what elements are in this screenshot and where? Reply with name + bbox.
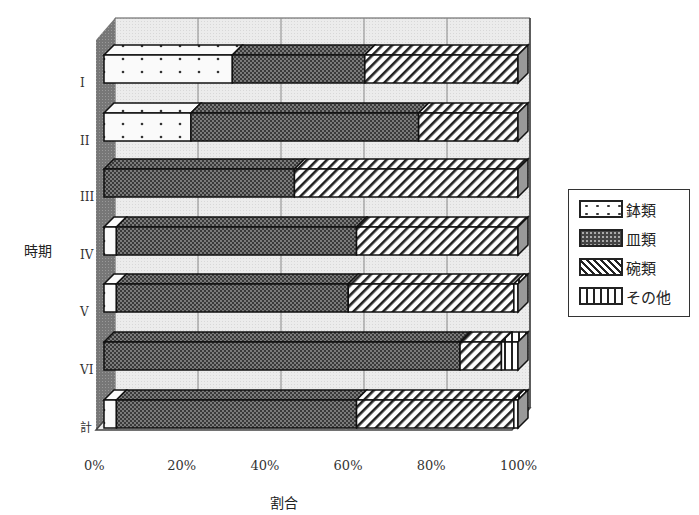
y-category-label: 計 bbox=[80, 420, 92, 435]
bar-segment bbox=[116, 217, 366, 255]
y-category-label: I bbox=[80, 76, 85, 90]
bar-row bbox=[104, 274, 528, 312]
bar-row bbox=[104, 390, 528, 428]
bar-row bbox=[104, 217, 528, 255]
legend: 鉢類 皿類 碗類 その他 bbox=[568, 189, 690, 317]
bars bbox=[104, 45, 528, 428]
bar-segment bbox=[104, 103, 201, 141]
x-tick-label: 0% bbox=[84, 458, 105, 473]
bar-segment bbox=[104, 159, 304, 197]
bar-segment bbox=[294, 159, 528, 197]
legend-label: 皿類 bbox=[626, 228, 656, 249]
bar-segment bbox=[357, 217, 528, 255]
x-tick-label: 40% bbox=[250, 458, 279, 473]
y-category-label: VI bbox=[79, 363, 94, 377]
bar-segment bbox=[348, 274, 524, 312]
bar-row bbox=[104, 45, 528, 83]
legend-label: 鉢類 bbox=[626, 199, 656, 220]
y-category-label: V bbox=[79, 305, 89, 319]
legend-item-sara: 皿類 bbox=[579, 227, 656, 249]
bar-segment bbox=[116, 390, 366, 428]
bar-row bbox=[104, 103, 528, 141]
legend-item-wan: 碗類 bbox=[579, 256, 656, 278]
y-category-label: II bbox=[80, 134, 90, 148]
dots-pattern-swatch bbox=[579, 200, 623, 218]
legend-label: 碗類 bbox=[626, 257, 656, 278]
legend-item-other: その他 bbox=[579, 285, 671, 307]
vertical-pattern-swatch bbox=[579, 287, 623, 305]
x-tick-label: 60% bbox=[334, 458, 363, 473]
bar-segment bbox=[104, 45, 242, 83]
x-tick-label: 80% bbox=[417, 458, 446, 473]
legend-label: その他 bbox=[626, 286, 671, 307]
legend-item-hachi: 鉢類 bbox=[579, 198, 656, 220]
x-axis-ticks: 0%20%40%60%80%100% bbox=[84, 458, 537, 473]
bar-segment bbox=[357, 390, 524, 428]
bar-segment bbox=[116, 274, 358, 312]
bar-segment bbox=[232, 45, 374, 83]
x-tick-label: 20% bbox=[167, 458, 196, 473]
bar-row bbox=[104, 332, 528, 370]
y-category-label: III bbox=[80, 190, 94, 204]
bar-segment bbox=[191, 103, 429, 141]
bar-segment bbox=[365, 45, 528, 83]
y-axis-categories: IIIIIIIVVVI計 bbox=[79, 76, 94, 435]
bar-row bbox=[104, 159, 528, 197]
bar-segment bbox=[104, 332, 470, 370]
y-category-label: IV bbox=[80, 248, 94, 262]
x-tick-label: 100% bbox=[500, 458, 537, 473]
y-axis-title: 時期 bbox=[24, 243, 52, 259]
x-axis-title: 割合 bbox=[270, 495, 298, 511]
diagonal-pattern-swatch bbox=[579, 258, 623, 276]
bar-segment bbox=[419, 103, 528, 141]
checker-pattern-swatch bbox=[579, 229, 623, 247]
